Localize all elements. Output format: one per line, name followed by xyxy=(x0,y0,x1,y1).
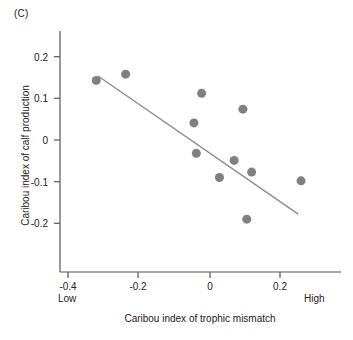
x-tick-label-layer: -0.4 -0.2 0 0.2 xyxy=(0,0,353,340)
x-tick-label: 0.2 xyxy=(258,281,302,292)
x-axis-title: Caribou index of trophic mismatch xyxy=(60,313,340,324)
x-tick-label: -0.4 xyxy=(46,281,90,292)
x-tick-label: -0.2 xyxy=(116,281,160,292)
scatter-plot-figure: (C) 0.2 0.1 0 -0.1 -0.2 xyxy=(0,0,353,340)
x-axis-high-label: High xyxy=(304,293,325,304)
y-axis-title: Caribou index of calf production xyxy=(20,56,31,256)
x-tick-label: 0 xyxy=(188,281,232,292)
x-axis-low-label: Low xyxy=(58,293,76,304)
